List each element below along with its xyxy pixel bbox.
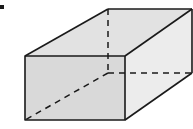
bullet-marker [0, 5, 4, 9]
rectangular-prism-diagram [0, 0, 193, 129]
front-face [25, 56, 125, 120]
